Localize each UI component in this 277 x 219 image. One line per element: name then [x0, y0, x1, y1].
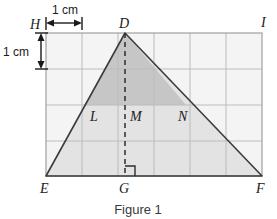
vertex-label-m: M [129, 109, 143, 124]
horizontal-arrow-head-left [46, 20, 54, 27]
horizontal-arrow-head-right [74, 20, 82, 27]
vertical-dimension-label: 1 cm [3, 45, 29, 59]
figure-caption: Figure 1 [114, 202, 162, 217]
figure-1-container: 1 cm 1 cm H D I L M N E G F Figure 1 [0, 0, 277, 219]
vertex-label-h: H [29, 17, 41, 32]
vertex-label-n: N [177, 109, 188, 124]
vertical-arrow-head-top [38, 33, 45, 41]
vertex-label-d: D [118, 16, 129, 31]
vertex-label-g: G [119, 181, 129, 196]
vertex-label-i: I [260, 15, 267, 30]
vertical-arrow-head-bottom [38, 61, 45, 69]
vertex-label-e: E [39, 181, 49, 196]
vertex-label-f: F [255, 181, 265, 196]
vertex-label-l: L [89, 109, 98, 124]
horizontal-dimension-label: 1 cm [52, 3, 78, 17]
